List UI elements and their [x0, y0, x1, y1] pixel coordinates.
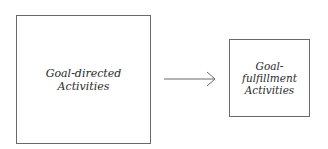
goal-fulfillment-activities-box: Goal- fulfillment Activities: [229, 39, 310, 117]
label-line: Activities: [46, 80, 122, 93]
label-line: fulfillment: [242, 72, 297, 84]
goal-directed-activities-label: Goal-directed Activities: [46, 67, 122, 93]
goal-fulfillment-activities-label: Goal- fulfillment Activities: [242, 60, 297, 96]
label-line: Goal-directed: [46, 67, 122, 80]
goal-directed-activities-box: Goal-directed Activities: [16, 15, 151, 144]
label-line: Goal-: [242, 60, 297, 72]
label-line: Activities: [242, 84, 297, 96]
arrow-right-icon: [163, 70, 219, 88]
